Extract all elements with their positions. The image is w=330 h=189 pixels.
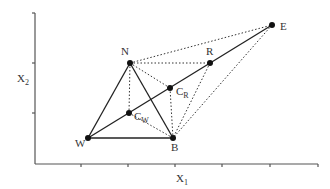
label-w: W — [75, 137, 86, 149]
solid-w-e — [88, 25, 272, 138]
solid-segments — [88, 25, 272, 138]
dotted-cr-b — [170, 88, 173, 138]
dotted-connectors — [129, 25, 272, 138]
label-cr: CR — [176, 85, 189, 100]
point-n — [127, 60, 133, 66]
y-axis-label: X2 — [17, 72, 29, 87]
diagram-canvas: X2 X1 N R E CR CW W B — [0, 0, 330, 189]
label-n: N — [121, 45, 129, 57]
label-cw: CW — [134, 110, 149, 125]
dotted-n-e — [130, 25, 272, 63]
label-r: R — [206, 45, 214, 57]
solid-n-b — [130, 63, 173, 138]
label-b: B — [171, 141, 178, 153]
dotted-n-cr — [130, 63, 170, 88]
point-e — [269, 22, 275, 28]
point-r — [207, 60, 213, 66]
point-cr — [167, 85, 173, 91]
dotted-n-cw — [129, 63, 130, 113]
dotted-e-b — [173, 25, 272, 138]
point-cw — [126, 110, 132, 116]
solid-w-n — [88, 63, 130, 138]
x-axis-label: X1 — [176, 172, 188, 187]
label-e: E — [280, 20, 287, 32]
point-w — [85, 135, 91, 141]
